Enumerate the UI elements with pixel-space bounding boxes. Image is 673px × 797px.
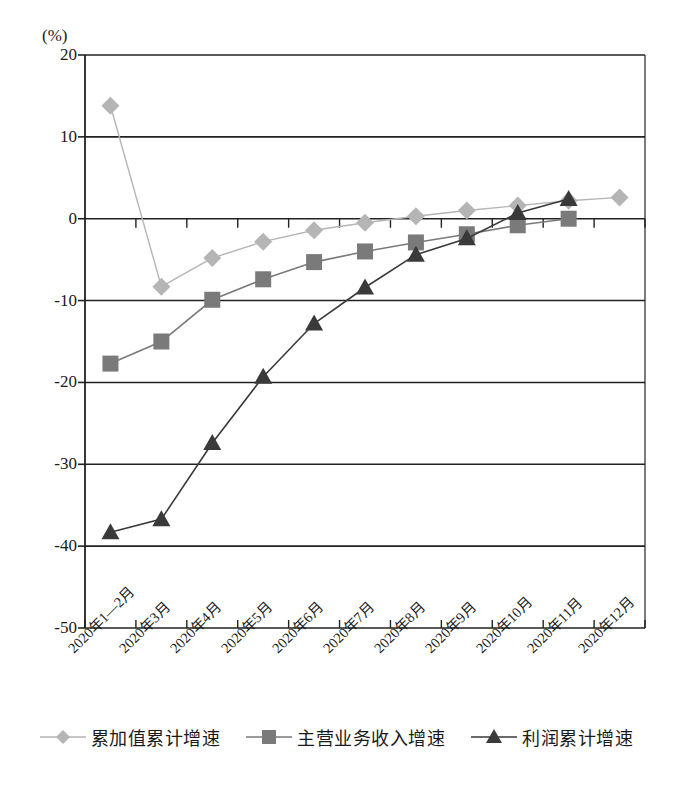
chart-legend: 累加值累计增速主营业务收入增速利润累计增速 xyxy=(0,724,673,750)
legend-item-2[interactable]: 主营业务收入增速 xyxy=(246,724,445,750)
data-point-square xyxy=(357,243,373,259)
data-point-diamond xyxy=(356,214,374,232)
legend-label: 利润累计增速 xyxy=(522,724,633,750)
y-axis-unit-label: (%) xyxy=(42,26,67,46)
triangle-marker-icon xyxy=(471,727,517,747)
data-point-triangle xyxy=(152,510,170,526)
series-line-2 xyxy=(111,219,569,364)
y-axis-tick-label: -30 xyxy=(31,455,77,472)
data-point-diamond xyxy=(101,97,119,115)
legend-label: 累加值累计增速 xyxy=(91,724,221,750)
data-point-square xyxy=(153,334,169,350)
data-point-diamond xyxy=(254,233,272,251)
y-axis-tick-label: 10 xyxy=(31,128,77,145)
legend-item-1[interactable]: 累加值累计增速 xyxy=(40,724,221,750)
data-point-diamond xyxy=(305,221,323,239)
data-point-diamond xyxy=(152,278,170,296)
data-point-square xyxy=(204,292,220,308)
data-point-diamond xyxy=(407,207,425,225)
data-point-diamond xyxy=(458,202,476,220)
chart-container: (%) 20100-10-20-30-40-50 2020年1—2月2020年3… xyxy=(0,0,673,797)
legend-label: 主营业务收入增速 xyxy=(297,724,445,750)
data-point-square xyxy=(306,254,322,270)
legend-item-3[interactable]: 利润累计增速 xyxy=(471,724,633,750)
data-point-diamond xyxy=(611,188,629,206)
data-point-diamond xyxy=(203,249,221,267)
y-axis-tick-label: -10 xyxy=(31,292,77,309)
y-axis-tick-label: -40 xyxy=(31,537,77,554)
y-axis-tick-label: 20 xyxy=(31,46,77,63)
data-point-square xyxy=(102,356,118,372)
data-point-triangle xyxy=(305,314,323,330)
square-marker-icon xyxy=(246,727,292,747)
data-point-square xyxy=(255,271,271,287)
y-axis-tick-label: 0 xyxy=(31,210,77,227)
series-line-3 xyxy=(111,199,569,532)
data-point-triangle xyxy=(356,278,374,294)
diamond-marker-icon xyxy=(40,727,86,747)
data-point-square xyxy=(561,211,577,227)
data-point-triangle xyxy=(203,434,221,450)
y-axis-tick-label: -20 xyxy=(31,373,77,390)
series-line-1 xyxy=(111,106,620,287)
line-chart-plot xyxy=(0,0,673,797)
